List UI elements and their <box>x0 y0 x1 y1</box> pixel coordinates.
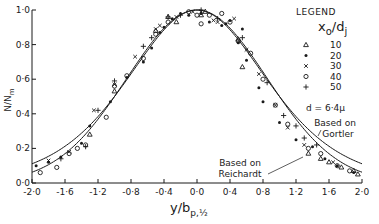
y-tick-label: 1·0 <box>16 5 31 15</box>
annotation-gortler-leader <box>318 130 321 136</box>
data-point-dot <box>109 100 112 103</box>
data-point-circle <box>319 151 323 155</box>
data-point-circle <box>306 146 310 150</box>
curve-gortler <box>32 10 362 164</box>
series-50 <box>58 7 319 161</box>
x-tick-label: 0·0 <box>190 187 205 197</box>
svg-text:N/Nm: N/Nm <box>3 88 16 112</box>
data-point-circle <box>348 169 352 173</box>
data-point-dot <box>245 59 248 62</box>
x-axis-label-sub: p,½ <box>190 208 208 218</box>
y-axis-label-sub: m <box>8 88 16 95</box>
y-tick-label: 0·8 <box>16 40 31 50</box>
data-point-dot <box>311 145 314 148</box>
data-point-triangle <box>87 132 92 136</box>
data-point-triangle <box>327 160 332 164</box>
legend-entry-label: 50 <box>330 82 342 92</box>
data-point-x <box>212 19 216 23</box>
annotation-gortler-line2: Gortler <box>322 129 354 139</box>
data-point-triangle <box>174 20 179 24</box>
series-40 <box>38 10 352 175</box>
legend-entries: 1020304050 <box>303 40 341 92</box>
series-30 <box>47 10 335 164</box>
legend-var-d: d <box>336 19 344 34</box>
legend-var-d-sub: j <box>343 26 347 37</box>
data-point-x <box>92 109 96 113</box>
legend-entry-label: 40 <box>330 72 342 82</box>
x-axis-label-main: y/b <box>170 200 190 215</box>
data-point-plus <box>314 142 319 147</box>
x-tick-label: -2·0 <box>23 187 41 197</box>
legend-entry-label: 20 <box>330 51 342 61</box>
x-axis-label: y/bp,½ <box>170 200 208 218</box>
data-point-dot <box>80 142 83 145</box>
data-point-dot <box>257 86 260 89</box>
y-ticks: 0·00·20·40·60·81·0 <box>16 5 36 188</box>
x-tick-label: -1·6 <box>56 187 74 197</box>
y-tick-label: 0·2 <box>16 143 30 153</box>
annotation-reichardt-leader <box>268 157 303 174</box>
x-tick-label: 1·2 <box>289 187 303 197</box>
data-point-plus <box>240 35 245 40</box>
data-point-circle <box>75 146 79 150</box>
data-point-dot <box>295 138 298 141</box>
data-point-dot <box>171 17 174 20</box>
x-tick-label: 0·8 <box>256 187 271 197</box>
x-tick-label: 2·0 <box>355 187 370 197</box>
data-point-plus <box>58 156 63 161</box>
y-axis-label-main: N/N <box>3 95 13 112</box>
data-point-plus <box>95 108 100 113</box>
legend: LEGEND xo/dj 1020304050 d = 6·4μ <box>296 7 347 113</box>
data-point-dot <box>220 24 223 27</box>
x-tick-label: -0·8 <box>122 187 140 197</box>
data-point-circle <box>55 165 59 169</box>
data-point-plus <box>302 135 307 140</box>
legend-entry-label: 30 <box>330 61 342 71</box>
data-point-dot <box>88 124 91 127</box>
annotation-gortler-line1: Based on <box>314 118 356 128</box>
legend-entry: 40 <box>304 72 342 82</box>
annotation-reichardt-line2: Reichardt <box>219 169 262 179</box>
data-point-circle <box>261 77 265 81</box>
data-point-plus <box>281 113 286 118</box>
annotation-reichardt-line1: Based on <box>219 158 261 168</box>
data-point-dot <box>158 31 161 34</box>
axes <box>32 10 362 183</box>
data-point-dot <box>323 157 326 160</box>
data-point-x <box>302 143 306 147</box>
data-point-circle <box>286 122 290 126</box>
legend-entry: 50 <box>303 82 341 92</box>
data-point-triangle <box>112 89 117 93</box>
legend-marker-plus <box>303 84 308 89</box>
data-point-dot <box>208 21 211 24</box>
data-point-dot <box>163 26 166 29</box>
legend-title: LEGEND <box>296 7 336 17</box>
data-point-dot <box>241 28 244 31</box>
data-point-dot <box>150 47 153 50</box>
data-points <box>35 7 361 176</box>
data-point-plus <box>293 123 298 128</box>
data-point-triangle <box>240 64 245 68</box>
legend-entry: 30 <box>304 61 342 71</box>
y-tick-label: 0·6 <box>16 74 31 84</box>
data-point-circle <box>220 11 224 15</box>
data-point-dot <box>336 164 339 167</box>
x-tick-label: 1·6 <box>322 187 337 197</box>
data-point-circle <box>38 171 42 175</box>
legend-variable: xo/dj <box>318 19 347 37</box>
series-10 <box>87 9 360 176</box>
data-point-circle <box>104 115 108 119</box>
data-point-x <box>257 72 261 76</box>
legend-entry-label: 10 <box>330 40 342 50</box>
chart: 0·00·20·40·60·81·0 -2·0-1·6-1·2-0·8-0·40… <box>0 0 379 224</box>
legend-marker-triangle <box>304 42 309 46</box>
data-point-circle <box>195 13 199 17</box>
data-point-dot <box>278 121 281 124</box>
legend-entry: 20 <box>305 51 342 61</box>
data-point-x <box>158 24 162 28</box>
data-point-plus <box>149 35 154 40</box>
x-tick-label: -0·4 <box>155 187 173 197</box>
y-axis-label: N/Nm <box>3 88 16 112</box>
data-point-triangle <box>318 156 323 160</box>
data-point-dot <box>224 22 227 25</box>
